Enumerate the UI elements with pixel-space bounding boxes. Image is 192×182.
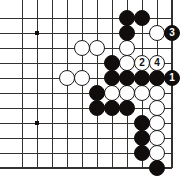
move-number-label: 1 bbox=[169, 72, 174, 82]
move-number-label: 2 bbox=[139, 57, 144, 67]
star-point bbox=[35, 31, 39, 35]
go-board-diagram: 1234 bbox=[0, 0, 192, 182]
move-number-label: 3 bbox=[169, 27, 174, 37]
move-number-label: 4 bbox=[154, 57, 159, 67]
star-point bbox=[35, 121, 39, 125]
